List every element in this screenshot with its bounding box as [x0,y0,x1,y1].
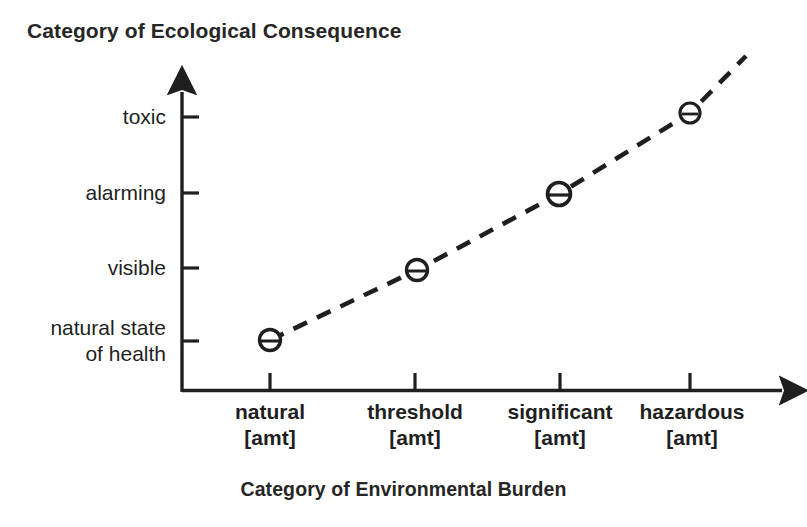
dashed-trend-line [270,56,746,340]
x-tick-label-natural-line1: natural [235,400,305,423]
x-axis [182,373,782,391]
x-tick-label-threshold-amt: [amt] [335,425,495,451]
x-tick-label-hazardous: hazardous [amt] [612,399,772,451]
y-tick-label-alarming: alarming [85,180,166,205]
data-point-hazardous [680,103,700,123]
x-axis-title: Category of Environmental Burden [0,478,807,501]
trend-line-series [270,56,746,340]
data-point-threshold [407,260,428,281]
x-tick-label-threshold: threshold [amt] [335,399,495,451]
y-tick-label-visible: visible [108,255,166,280]
figure-container: Category of Ecological Consequence [0,0,807,527]
y-tick-label-natural-state-line1: natural state [50,316,166,339]
x-tick-label-natural: natural [amt] [190,399,350,451]
y-tick-label-natural-state-line2: of health [85,342,166,365]
x-tick-label-natural-amt: [amt] [190,425,350,451]
data-point-significant [548,183,571,206]
y-tick-label-natural-state: natural state of health [50,315,166,367]
x-tick-label-hazardous-line1: hazardous [639,400,744,423]
x-tick-label-hazardous-amt: [amt] [612,425,772,451]
y-axis [182,92,199,392]
y-tick-label-toxic: toxic [123,104,166,129]
x-tick-label-threshold-line1: threshold [367,400,463,423]
data-point-natural [260,330,281,351]
x-tick-label-significant-line1: significant [507,400,612,423]
